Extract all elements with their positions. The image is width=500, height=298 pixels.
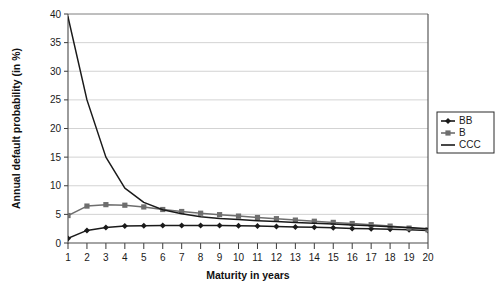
x-tick-label: 14 [309,252,321,263]
data-point [236,213,241,218]
x-tick-label: 16 [347,252,359,263]
legend-label: CCC [459,139,481,150]
data-point [122,203,127,208]
x-tick-label: 17 [366,252,378,263]
legend-marker-square [445,130,450,135]
x-tick-label: 6 [160,252,166,263]
data-point [84,203,89,208]
x-tick-label: 7 [179,252,185,263]
x-tick-label: 15 [328,252,340,263]
y-tick-label: 10 [50,180,62,191]
default-probability-chart: 0510152025303540 12345678910111213141516… [0,0,500,298]
x-tick-label: 13 [290,252,302,263]
y-tick-label: 0 [55,238,61,249]
x-tick-label: 10 [233,252,245,263]
x-tick-label: 1 [65,252,71,263]
x-tick-label: 18 [385,252,397,263]
data-point [198,211,203,216]
x-tick-label: 11 [252,252,263,263]
chart-legend: BBBCCC [437,112,494,153]
y-tick-label: 40 [50,9,62,20]
x-tick-label: 9 [217,252,223,263]
legend-label: BB [459,115,473,126]
y-tick-label: 15 [50,152,62,163]
y-tick-label: 35 [50,37,62,48]
y-axis-label: Annual default probability (in %) [10,48,22,209]
legend-label: B [459,127,466,138]
x-axis-label: Maturity in years [206,269,290,281]
x-tick-label: 12 [271,252,283,263]
data-point [141,204,146,209]
x-tick-label: 5 [141,252,147,263]
data-point [103,202,108,207]
x-tick-label: 19 [403,252,415,263]
data-point [255,215,260,220]
y-tick-label: 20 [50,123,62,134]
data-point [217,212,222,217]
x-tick-label: 20 [422,252,434,263]
y-tick-label: 25 [50,94,62,105]
x-tick-label: 4 [122,252,128,263]
x-tick-label: 3 [103,252,109,263]
data-point [274,216,279,221]
y-tick-label: 5 [55,209,61,220]
x-tick-label: 8 [198,252,204,263]
x-tick-label: 2 [84,252,90,263]
y-tick-label: 30 [50,66,62,77]
